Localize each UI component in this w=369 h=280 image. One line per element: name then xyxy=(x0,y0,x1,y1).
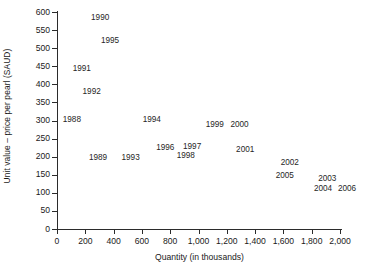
x-tick-mark xyxy=(255,230,256,234)
data-point-label: 2004 xyxy=(314,184,332,193)
y-tick-label: 200 xyxy=(10,152,50,161)
data-point-label: 1990 xyxy=(91,13,109,22)
y-tick-mark xyxy=(52,48,57,49)
y-tick-label: 550 xyxy=(10,26,50,35)
x-tick-mark xyxy=(114,230,115,234)
y-tick-mark xyxy=(52,30,57,31)
y-tick-label: 300 xyxy=(10,116,50,125)
y-tick-mark xyxy=(52,139,57,140)
y-tick-mark xyxy=(52,211,57,212)
y-tick-mark xyxy=(52,12,57,13)
data-point-label: 1996 xyxy=(156,142,174,151)
data-point-label: 1993 xyxy=(121,152,139,161)
data-point-label: 2006 xyxy=(338,184,356,193)
data-point-label: 1989 xyxy=(89,152,107,161)
data-point-label: 1995 xyxy=(101,35,119,44)
x-tick-label: 2,000 xyxy=(320,237,360,246)
x-tick-mark xyxy=(340,230,341,234)
y-tick-label: 50 xyxy=(10,206,50,215)
y-tick-label: 600 xyxy=(10,8,50,17)
y-tick-mark xyxy=(52,175,57,176)
x-tick-mark xyxy=(199,230,200,234)
x-tick-mark xyxy=(142,230,143,234)
x-tick-mark xyxy=(227,230,228,234)
data-point-label: 2000 xyxy=(230,120,248,129)
x-tick-mark xyxy=(85,230,86,234)
y-tick-label: 0 xyxy=(10,225,50,234)
x-tick-mark xyxy=(312,230,313,234)
plot-area: 050100150200250300350400450500550600 020… xyxy=(0,0,369,280)
x-tick-mark xyxy=(170,230,171,234)
data-point-label: 1991 xyxy=(73,64,91,73)
y-axis-line xyxy=(57,11,58,230)
x-axis-line xyxy=(57,229,342,230)
y-tick-label: 250 xyxy=(10,134,50,143)
y-tick-label: 150 xyxy=(10,170,50,179)
data-point-label: 2003 xyxy=(318,174,336,183)
y-tick-label: 350 xyxy=(10,98,50,107)
y-tick-mark xyxy=(52,66,57,67)
y-tick-label: 400 xyxy=(10,80,50,89)
x-axis-title: Quantity (in thousands) xyxy=(57,252,342,262)
data-point-label: 1988 xyxy=(63,114,81,123)
y-tick-mark xyxy=(52,84,57,85)
data-point-label: 1992 xyxy=(83,86,101,95)
y-tick-mark xyxy=(52,157,57,158)
data-point-label: 1994 xyxy=(143,114,161,123)
data-point-label: 1999 xyxy=(206,120,224,129)
y-tick-label: 100 xyxy=(10,188,50,197)
data-point-label: 1997 xyxy=(183,141,201,150)
x-tick-mark xyxy=(283,230,284,234)
x-tick-mark xyxy=(57,230,58,234)
y-tick-label: 500 xyxy=(10,44,50,53)
data-point-label: 2005 xyxy=(276,171,294,180)
y-tick-mark xyxy=(52,121,57,122)
data-point-label: 2001 xyxy=(236,145,254,154)
y-tick-label: 450 xyxy=(10,62,50,71)
y-tick-mark xyxy=(52,193,57,194)
data-point-label: 2002 xyxy=(281,158,299,167)
scatter-chart: Unit value – price per pearl (SAUD) 0501… xyxy=(0,0,369,280)
y-tick-mark xyxy=(52,102,57,103)
data-point-label: 1998 xyxy=(177,150,195,159)
